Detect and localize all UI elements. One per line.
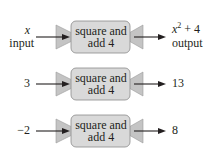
function-machine-2: 3 square and add 4 13 [0, 64, 206, 104]
box-label: square and add 4 [71, 72, 131, 96]
box-label: square and add 4 [71, 25, 131, 49]
output-value: 13 [172, 77, 184, 90]
input-value: −2 [17, 124, 30, 137]
output-label: output [172, 37, 203, 50]
function-machine-3: −2 square and add 4 8 [0, 111, 206, 151]
function-machine-1: x input square and add 4 x2 + 4 output [0, 17, 206, 57]
input-value: 3 [24, 77, 30, 90]
input-label: input [9, 37, 34, 50]
output-value: x2 + 4 [172, 23, 200, 36]
box-label: square and add 4 [71, 119, 131, 143]
output-value: 8 [172, 124, 178, 137]
